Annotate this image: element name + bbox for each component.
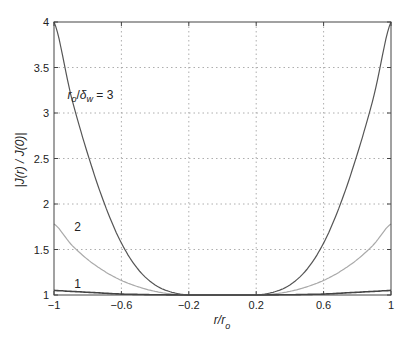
x-tick-label: 0.6 <box>316 299 331 311</box>
series-line-1 <box>54 290 391 295</box>
annotation-ratio-3: ro/δw = 3 <box>67 88 113 104</box>
x-tick-label: 0.2 <box>249 299 264 311</box>
x-tick-label: 1 <box>388 299 394 311</box>
series-line-2 <box>54 224 391 295</box>
y-tick-label: 1 <box>43 289 49 301</box>
y-tick-label: 3.5 <box>34 62 49 74</box>
y-tick-label: 2 <box>43 198 49 210</box>
x-tick-label: −1 <box>48 299 61 311</box>
x-axis-label: r/ro <box>214 313 230 331</box>
annotation-ratio-2: 2 <box>74 220 81 234</box>
annotation-ratio-1: 1 <box>74 277 81 291</box>
line-chart: −1−0.6−0.20.20.6111.522.533.54 ro/δw = 3… <box>0 0 408 341</box>
x-tick-label: −0.6 <box>111 299 133 311</box>
x-tick-label: −0.2 <box>178 299 200 311</box>
y-tick-label: 2.5 <box>34 153 49 165</box>
curve-annotations: ro/δw = 321 <box>67 88 113 291</box>
y-tick-label: 4 <box>43 16 49 28</box>
grid-lines <box>54 22 391 295</box>
y-axis-label: |J(r) / J(0)| <box>13 133 27 188</box>
tick-labels: −1−0.6−0.20.20.6111.522.533.54 <box>34 16 394 311</box>
y-tick-label: 3 <box>43 107 49 119</box>
y-tick-label: 1.5 <box>34 244 49 256</box>
